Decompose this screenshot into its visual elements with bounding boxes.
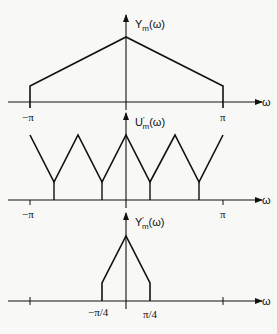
tick-pi-top: π	[220, 111, 226, 123]
xlabel-bottom: ω	[262, 295, 271, 307]
tick-neg-pi-middle: −π	[22, 208, 34, 220]
ylabel-bottom: Y'm(ω)	[135, 215, 164, 231]
panel-top: Ym(ω) ω −π π	[8, 15, 271, 123]
tick-neg-pi-over-4: −π/4	[88, 306, 109, 318]
xlabel-top: ω	[262, 96, 271, 108]
tick-pi-middle: π	[220, 208, 226, 220]
tick-neg-pi-top: −π	[22, 111, 34, 123]
ylabel-top: Ym(ω)	[135, 18, 165, 33]
tick-pi-over-4: π/4	[143, 308, 158, 320]
spectrum-diagram: Ym(ω) ω −π π U'm(ω) ω −π π Y'm(ω) ω −π/4…	[0, 0, 277, 334]
panel-middle: U'm(ω) ω −π π	[8, 113, 271, 220]
xlabel-middle: ω	[262, 194, 271, 206]
panel-bottom: Y'm(ω) ω −π/4 π/4	[8, 213, 271, 320]
ylabel-middle: U'm(ω)	[135, 115, 165, 131]
